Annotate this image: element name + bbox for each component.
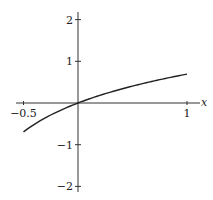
chart: −0.5121−1−2 x [0,0,213,200]
x-axis-label: x [201,96,208,109]
y-tick-label: −1 [57,139,73,152]
axes [16,12,200,192]
y-tick-label: 2 [66,14,73,27]
y-tick-label: −2 [57,180,73,193]
x-tick-label: −0.5 [10,107,37,120]
x-tick-label: 1 [184,107,191,120]
y-tick-label: 1 [66,55,73,68]
